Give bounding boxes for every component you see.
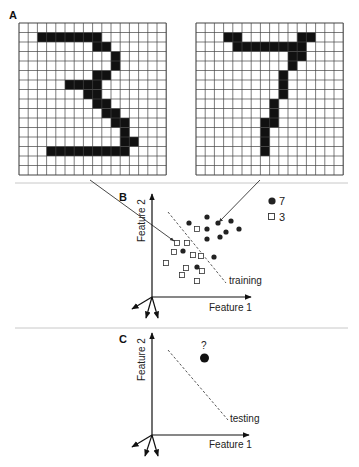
point-3 bbox=[199, 268, 204, 273]
digit-3-pixel-grid bbox=[19, 23, 166, 175]
figure-canvas: A B Feature 2 Feature 1 training 7 3 bbox=[0, 0, 359, 467]
point-7 bbox=[228, 218, 233, 223]
unknown-point-question-mark: ? bbox=[201, 340, 207, 351]
filled-pixel bbox=[47, 147, 130, 157]
panel-c-label: C bbox=[119, 333, 127, 345]
panel-b: B Feature 2 Feature 1 training 7 3 bbox=[119, 191, 285, 318]
filled-pixel bbox=[37, 33, 101, 43]
boundary-label-training: training bbox=[229, 275, 262, 286]
filled-pixel bbox=[111, 61, 120, 71]
scatter-points-3 bbox=[163, 226, 204, 283]
point-3 bbox=[190, 252, 195, 257]
z-axis-right bbox=[152, 435, 158, 456]
point-7 bbox=[204, 226, 209, 231]
connector-arrow-7 bbox=[219, 180, 260, 222]
point-7 bbox=[180, 248, 185, 253]
point-7 bbox=[186, 220, 191, 225]
filled-pixel bbox=[260, 128, 269, 138]
legend-label-3: 3 bbox=[279, 211, 285, 223]
panel-c: C Feature 2 Feature 1 testing ? bbox=[119, 333, 259, 456]
filled-pixel bbox=[270, 109, 279, 119]
point-3 bbox=[163, 260, 168, 265]
point-3 bbox=[174, 240, 179, 245]
legend-open-square-icon bbox=[269, 214, 275, 220]
legend-label-7: 7 bbox=[279, 195, 285, 207]
point-7 bbox=[204, 214, 209, 219]
x-axis-label: Feature 1 bbox=[209, 439, 252, 450]
filled-pixel bbox=[288, 61, 297, 71]
point-3 bbox=[179, 272, 184, 277]
z-axis-right bbox=[152, 297, 158, 318]
panel-b-label: B bbox=[119, 191, 127, 203]
point-3 bbox=[198, 253, 203, 258]
point-7 bbox=[211, 254, 216, 259]
filled-pixel bbox=[260, 147, 269, 157]
panel-a-label: A bbox=[9, 9, 17, 21]
digit-7-pixel-grid bbox=[196, 23, 343, 175]
point-3 bbox=[184, 240, 189, 245]
filled-pixel bbox=[279, 90, 288, 100]
panel-a: A bbox=[9, 9, 343, 175]
x-axis-label: Feature 1 bbox=[209, 302, 252, 313]
legend: 7 3 bbox=[268, 195, 285, 223]
filled-pixel bbox=[260, 137, 269, 147]
boundary-label-testing: testing bbox=[230, 413, 259, 424]
point-7 bbox=[204, 236, 209, 241]
filled-pixel bbox=[120, 128, 129, 138]
point-7 bbox=[236, 226, 241, 231]
point-7 bbox=[223, 229, 228, 234]
filled-pixel bbox=[279, 71, 288, 81]
legend-filled-circle-icon bbox=[268, 197, 275, 204]
point-3 bbox=[183, 265, 188, 270]
filled-pixel bbox=[270, 99, 279, 109]
point-3 bbox=[194, 226, 199, 231]
point-7 bbox=[194, 264, 199, 269]
point-7 bbox=[215, 220, 220, 225]
connector-arrow-3 bbox=[90, 180, 174, 241]
point-7 bbox=[217, 234, 222, 239]
point-3 bbox=[194, 278, 199, 283]
point-3 bbox=[171, 249, 176, 254]
unknown-test-point bbox=[200, 354, 209, 363]
y-axis-label: Feature 2 bbox=[136, 338, 147, 381]
y-axis-label: Feature 2 bbox=[136, 199, 147, 242]
filled-pixel bbox=[279, 80, 288, 90]
filled-pixel bbox=[111, 52, 120, 62]
decision-boundary-testing bbox=[168, 350, 228, 420]
